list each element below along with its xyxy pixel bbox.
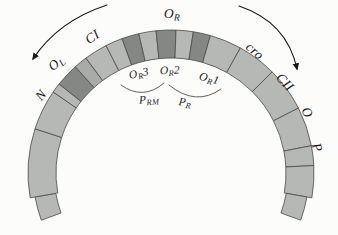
label-promoter-prm: PRM <box>137 92 160 108</box>
label-operator-ol: OL <box>45 52 68 75</box>
label-site-or1: OR1 <box>197 69 220 88</box>
right-tail <box>281 193 307 220</box>
label-site-or3: OR3 <box>128 65 151 83</box>
pr-extent-bracket <box>169 85 221 97</box>
segment-or2-operator <box>156 30 176 59</box>
label-gene-p: P <box>309 140 326 154</box>
arc-segments-layer <box>28 30 314 220</box>
label-site-or1-text: 1 <box>212 73 221 86</box>
prm-extent-bracket <box>121 83 164 93</box>
left-tail <box>35 193 61 220</box>
lambda-regulatory-region-figure: NOLCIORcroCIIOPOR3OR2OR1PRMPR <box>0 0 338 235</box>
label-gene-ci-text: CI <box>82 26 103 47</box>
label-operator-or: OR <box>163 6 180 23</box>
segment-n-lower <box>28 129 62 198</box>
label-operator-or-text: O <box>164 6 175 21</box>
label-promoter-pr-subscript: R <box>184 101 192 111</box>
label-gene-ci: CI <box>82 26 103 47</box>
segment-right-end <box>284 166 314 198</box>
label-promoter-pr: PR <box>177 95 193 111</box>
label-gene-p-text: P <box>309 140 326 154</box>
genetic-map-arc-svg: NOLCIORcroCIIOPOR3OR2OR1PRMPR <box>0 0 338 235</box>
label-site-or2: OR2 <box>160 63 181 78</box>
label-operator-or-subscript: R <box>173 12 181 23</box>
label-site-or2-text: 2 <box>174 63 181 75</box>
label-promoter-prm-subscript: RM <box>145 97 160 107</box>
